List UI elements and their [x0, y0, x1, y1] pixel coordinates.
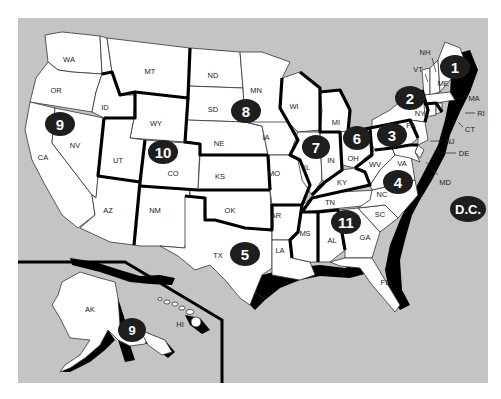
- label-nc: NC: [377, 190, 388, 199]
- label-mo: MO: [268, 169, 280, 178]
- label-in: IN: [327, 156, 335, 165]
- state-wy[interactable]: [130, 92, 188, 142]
- label-ok: OK: [225, 206, 236, 215]
- region-7-badge[interactable]: 7: [302, 135, 330, 159]
- label-ky: KY: [337, 178, 347, 187]
- state-nd[interactable]: [188, 48, 243, 88]
- label-ma: MA: [468, 94, 479, 103]
- label-ca: CA: [38, 153, 48, 162]
- svg-text:9: 9: [128, 323, 135, 338]
- label-ks: KS: [215, 172, 225, 181]
- label-ne: NE: [214, 139, 224, 148]
- label-va: VA: [397, 159, 406, 168]
- label-ct: CT: [465, 125, 475, 134]
- region-4-badge[interactable]: 4: [383, 170, 413, 194]
- region-10-badge[interactable]: 10: [148, 140, 178, 164]
- label-oh: OH: [347, 154, 358, 163]
- label-nm: NM: [149, 206, 161, 215]
- svg-text:8: 8: [242, 103, 250, 120]
- label-ar: AR: [271, 211, 282, 220]
- label-al: AL: [327, 236, 336, 245]
- region-11-badge[interactable]: 11: [331, 210, 361, 234]
- label-az: AZ: [103, 206, 113, 215]
- label-nj: NJ: [445, 137, 454, 146]
- region-9-alaska-badge[interactable]: 9: [118, 318, 146, 342]
- label-co: CO: [167, 169, 178, 178]
- region-3-badge[interactable]: 3: [377, 123, 407, 147]
- label-mt: MT: [145, 67, 156, 76]
- region-5-badge[interactable]: 5: [230, 242, 260, 266]
- label-mi: MI: [332, 118, 340, 127]
- svg-text:D.C.: D.C.: [455, 202, 481, 217]
- label-nd: ND: [208, 71, 219, 80]
- state-ks[interactable]: [198, 155, 270, 190]
- label-ak: AK: [85, 305, 95, 314]
- label-mn: MN: [250, 86, 262, 95]
- svg-text:10: 10: [155, 144, 172, 161]
- label-ri: RI: [477, 109, 485, 118]
- label-wi: WI: [289, 102, 298, 111]
- label-id: ID: [101, 103, 109, 112]
- state-nm[interactable]: [134, 186, 190, 248]
- svg-text:2: 2: [406, 90, 414, 107]
- label-ms: MS: [299, 229, 310, 238]
- label-hi: HI: [176, 320, 184, 329]
- region-9-badge[interactable]: 9: [45, 112, 75, 136]
- svg-text:3: 3: [388, 127, 396, 144]
- svg-text:1: 1: [451, 59, 459, 76]
- svg-text:9: 9: [56, 116, 64, 133]
- label-wy: WY: [150, 119, 162, 128]
- label-sd: SD: [208, 105, 219, 114]
- label-sc: SC: [375, 210, 386, 219]
- label-nh: NH: [420, 48, 431, 57]
- label-ny: NY: [415, 109, 425, 118]
- label-ut: UT: [113, 156, 123, 165]
- label-ia: IA: [262, 133, 269, 142]
- svg-text:11: 11: [338, 214, 354, 231]
- label-or: OR: [50, 86, 62, 95]
- svg-text:4: 4: [394, 174, 403, 191]
- label-tx: TX: [213, 251, 223, 260]
- label-wv: WV: [369, 160, 381, 169]
- svg-text:6: 6: [353, 130, 361, 147]
- label-la: LA: [275, 246, 284, 255]
- label-tn: TN: [325, 198, 335, 207]
- region-8-badge[interactable]: 8: [231, 99, 261, 123]
- label-wa: WA: [63, 55, 75, 64]
- label-de: DE: [459, 149, 469, 158]
- region-2-badge[interactable]: 2: [395, 86, 425, 110]
- us-regions-map: WA OR CA NV ID MT WY UT CO AZ NM ND SD N…: [0, 0, 501, 399]
- label-ga: GA: [360, 233, 371, 242]
- region-dc-badge[interactable]: D.C.: [450, 196, 486, 222]
- label-md: MD: [439, 178, 451, 187]
- region-6-badge[interactable]: 6: [343, 126, 371, 150]
- region-1-badge[interactable]: 1: [440, 55, 470, 79]
- label-pa: PA: [406, 121, 415, 130]
- label-vt: VT: [413, 65, 423, 74]
- label-il: IL: [304, 163, 310, 172]
- svg-text:5: 5: [241, 246, 249, 263]
- label-nv: NV: [70, 141, 80, 150]
- svg-text:7: 7: [312, 139, 320, 156]
- label-me: ME: [437, 79, 448, 88]
- label-fl: FL: [381, 278, 390, 287]
